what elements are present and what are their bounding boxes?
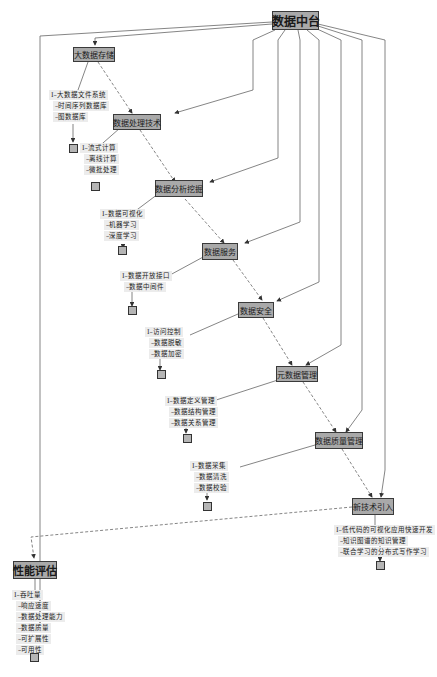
node-metadata[interactable]: 元数据管理	[276, 366, 318, 382]
node-label: 数据处理技术	[113, 117, 161, 128]
leaf-metadata[interactable]	[183, 434, 192, 443]
node-analytics[interactable]: 数据分析挖掘	[155, 180, 203, 197]
list-metadata: I–数据定义管理 –数据结构管理 –数据关系管理	[165, 396, 218, 429]
list-analytics: I–数据可视化 –机器学习 –深度学习	[100, 209, 145, 242]
edge-root-newtech	[318, 24, 385, 497]
list-processing: I–流式计算 –离线计算 –微批处理	[80, 143, 119, 176]
edge-root-metadata	[306, 28, 341, 365]
node-label: 性能评估	[13, 562, 57, 578]
leaf-storage[interactable]	[69, 144, 78, 153]
leaf-newtech[interactable]	[376, 561, 385, 570]
node-security[interactable]: 数据安全	[238, 302, 274, 318]
leaf-processing[interactable]	[91, 182, 100, 191]
leaf-analytics[interactable]	[118, 246, 127, 255]
edge-root-security	[277, 30, 319, 301]
node-service[interactable]: 数据服务	[202, 243, 238, 260]
list-service: I–数据开放接口 –数据中间件	[120, 271, 172, 293]
node-label: 数据分析挖掘	[155, 183, 203, 194]
edge-root-quality	[318, 26, 362, 432]
leaf-perf[interactable]	[30, 653, 39, 662]
edge-root-processing	[175, 30, 275, 113]
node-newtech[interactable]: 新技术引入	[352, 498, 394, 515]
node-label: 元数据管理	[277, 369, 317, 380]
list-security: I–访问控制 –数据脱敏 –数据加密	[145, 327, 184, 360]
node-label: 新技术引入	[353, 501, 393, 512]
leaf-service[interactable]	[128, 306, 137, 315]
node-label: 数据安全	[240, 305, 272, 316]
leaf-security[interactable]	[157, 370, 166, 379]
edge-root-analytics	[210, 30, 285, 182]
node-root-label: 数据中台	[272, 12, 320, 29]
node-processing[interactable]: 数据处理技术	[113, 114, 161, 130]
list-quality: I–数据采集 –数据清洗 –数据校验	[190, 461, 229, 494]
list-newtech: I–低代码的可视化应用快速开发 –知识图谱的知识管理 –联合学习的分布式写作学习	[334, 525, 435, 558]
node-quality[interactable]: 数据质量管理	[315, 432, 363, 449]
node-root[interactable]: 数据中台	[272, 11, 319, 30]
node-label: 数据质量管理	[315, 435, 363, 446]
node-storage[interactable]: 大数据存储	[73, 47, 115, 62]
list-storage: I–大数据文件系统 –时间序列数据库 –图数据库	[49, 90, 109, 123]
list-perf: I–吞吐量 –响应速度 –数据处理能力 –数据质量 –可扩展性 –可用性	[12, 590, 65, 656]
leaf-quality[interactable]	[203, 502, 212, 511]
node-perf[interactable]: 性能评估	[13, 561, 57, 579]
node-label: 大数据存储	[74, 49, 114, 60]
node-label: 数据服务	[204, 246, 236, 257]
